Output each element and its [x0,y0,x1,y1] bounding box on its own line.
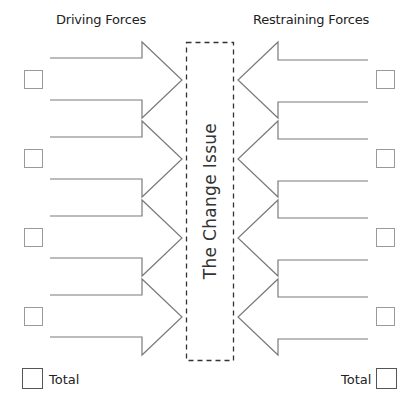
driving-force-score-box[interactable] [24,70,43,89]
restraining-force-arrow [238,200,368,276]
restraining-force-arrow [238,42,368,118]
driving-force-arrow [50,200,182,276]
restraining-force-score-box[interactable] [376,307,395,326]
driving-force-score-box[interactable] [24,149,43,168]
driving-total-label: Total [49,372,79,387]
driving-force-arrow [50,279,182,355]
driving-force-arrow [50,42,182,118]
restraining-arrows [238,42,368,355]
change-issue-label: The Change Issue [200,123,220,279]
driving-force-score-box[interactable] [24,228,43,247]
restraining-force-arrow [238,279,368,355]
driving-total-box[interactable] [22,368,43,389]
driving-force-arrow [50,121,182,197]
restraining-force-score-box[interactable] [376,149,395,168]
restraining-total-box[interactable] [376,368,397,389]
restraining-force-score-box[interactable] [376,70,395,89]
restraining-force-arrow [238,121,368,197]
driving-force-score-box[interactable] [24,307,43,326]
restraining-total-label: Total [341,372,371,387]
restraining-force-score-box[interactable] [376,228,395,247]
driving-arrows [50,42,182,355]
